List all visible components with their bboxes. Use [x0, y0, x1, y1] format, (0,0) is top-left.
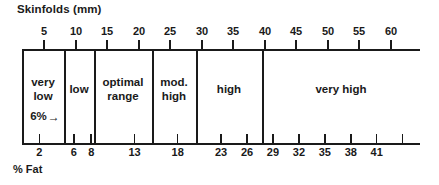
category-label-low-line1: low: [69, 83, 88, 97]
bottom-axis-line: [22, 143, 420, 145]
top-tick-40: [264, 40, 266, 49]
divider-high-very-high: [262, 50, 264, 144]
category-label-mod-high-line1: mod.: [160, 76, 187, 90]
top-tick-15: [106, 40, 108, 49]
bottom-tick-35: [324, 134, 326, 143]
bottom-tick-label-32: 32: [293, 146, 305, 158]
category-label-low: low: [69, 83, 88, 97]
bottom-tick-44: [402, 134, 404, 143]
bottom-tick-6: [73, 134, 75, 143]
category-label-high: high: [217, 83, 241, 97]
bottom-tick-label-26: 26: [241, 146, 253, 158]
six-percent-annotation: 6%→: [30, 110, 60, 123]
top-tick-10: [75, 40, 77, 49]
top-tick-label-15: 15: [101, 25, 113, 37]
bottom-tick-29: [272, 134, 274, 143]
bottom-tick-label-8: 8: [88, 146, 94, 158]
top-tick-label-45: 45: [290, 25, 302, 37]
top-tick-label-25: 25: [164, 25, 176, 37]
right-arrow-icon: →: [48, 112, 60, 123]
top-tick-label-35: 35: [227, 25, 239, 37]
bottom-tick-label-2: 2: [36, 146, 42, 158]
category-label-very-low-line2: low: [31, 90, 55, 104]
bottom-tick-8: [90, 134, 92, 143]
bottom-tick-label-18: 18: [172, 146, 184, 158]
top-tick-55: [358, 40, 360, 49]
category-label-optimal-line2: range: [103, 90, 144, 104]
top-tick-20: [138, 40, 140, 49]
category-band-outline: [22, 49, 420, 145]
top-tick-label-40: 40: [259, 25, 271, 37]
top-tick-label-50: 50: [322, 25, 334, 37]
divider-optimal-mod-high: [152, 50, 154, 144]
top-tick-25: [169, 40, 171, 49]
chart-title: Skinfolds (mm): [17, 3, 101, 15]
category-label-high-line1: high: [217, 83, 241, 97]
top-tick-label-60: 60: [385, 25, 397, 37]
bottom-tick-label-41: 41: [371, 146, 383, 158]
bottom-tick-label-38: 38: [345, 146, 357, 158]
category-label-mod-high-line2: high: [160, 90, 187, 104]
bottom-tick-label-23: 23: [215, 146, 227, 158]
bottom-tick-38: [350, 134, 352, 143]
top-tick-35: [232, 40, 234, 49]
bottom-tick-18: [177, 134, 179, 143]
bottom-tick-41: [376, 134, 378, 143]
category-label-mod-high: mod. high: [160, 76, 187, 103]
divider-low-optimal: [94, 50, 96, 144]
bottom-tick-label-13: 13: [128, 146, 140, 158]
bottom-tick-32: [298, 134, 300, 143]
divider-mod-high-high: [196, 50, 198, 144]
top-tick-label-55: 55: [353, 25, 365, 37]
bottom-tick-label-35: 35: [319, 146, 331, 158]
bottom-tick-label-29: 29: [267, 146, 279, 158]
top-tick-label-20: 20: [133, 25, 145, 37]
bottom-tick-13: [134, 134, 136, 143]
bottom-tick-2: [39, 134, 41, 143]
category-label-very-high-line1: very high: [315, 83, 366, 97]
bottom-tick-label-6: 6: [71, 146, 77, 158]
category-label-very-high: very high: [315, 83, 366, 97]
bottom-axis-caption: % Fat: [13, 163, 42, 175]
category-label-optimal-range: optimal range: [103, 76, 144, 103]
divider-very-low-low: [64, 50, 66, 144]
top-tick-label-5: 5: [41, 25, 47, 37]
bottom-tick-26: [246, 134, 248, 143]
bottom-tick-23: [220, 134, 222, 143]
skinfold-body-fat-chart: Skinfolds (mm) 5 10 15 20 25 30 35 40 45…: [0, 0, 439, 185]
top-tick-5: [43, 40, 45, 49]
category-label-very-low-line1: very: [31, 76, 55, 90]
top-tick-60: [390, 40, 392, 49]
top-tick-label-30: 30: [196, 25, 208, 37]
top-tick-45: [295, 40, 297, 49]
category-label-optimal-line1: optimal: [103, 76, 144, 90]
category-label-very-low: very low: [31, 76, 55, 103]
top-tick-30: [201, 40, 203, 49]
six-percent-text: 6%: [30, 110, 47, 122]
top-tick-label-10: 10: [70, 25, 82, 37]
top-tick-50: [327, 40, 329, 49]
